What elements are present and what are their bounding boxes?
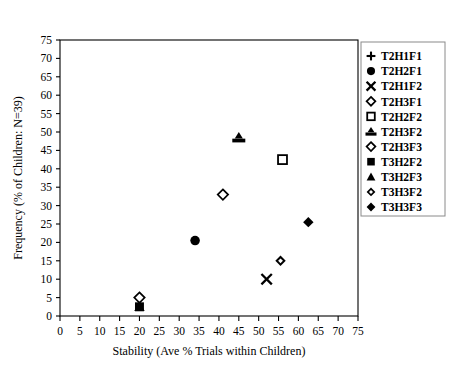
y-tick-label: 75: [41, 34, 53, 46]
legend-item-label: T3H3F3: [381, 201, 422, 213]
y-tick-label: 15: [41, 255, 53, 267]
legend-item: T2H2F2: [367, 111, 422, 123]
scatter-chart: 051015202530354045505560657075 051015202…: [0, 0, 449, 384]
y-tick-label: 70: [41, 52, 53, 64]
legend-item-label: T3H2F2: [381, 156, 422, 168]
x-tick-label: 50: [253, 325, 265, 337]
marker-filled-diamond-T3H3F3: [303, 217, 313, 227]
marker-triangle-bar-T2H3F2: [232, 132, 245, 142]
legend-item-label: T2H3F2: [381, 126, 422, 138]
x-tick-label: 70: [332, 325, 344, 337]
y-tick-label: 5: [46, 292, 52, 304]
marker-filled-circle-T2H2F1: [190, 236, 200, 246]
y-tick-label: 40: [41, 163, 53, 175]
plot-frame: [60, 40, 358, 316]
marker-open-square-legend: [367, 113, 375, 121]
marker-cross-T2H1F2: [261, 274, 271, 284]
y-tick-label: 30: [41, 200, 53, 212]
y-tick-label: 65: [41, 71, 53, 83]
x-axis-title: Stability (Ave % Trials within Children): [113, 344, 306, 358]
marker-open-diamond-T2H3F3: [134, 292, 144, 302]
marker-filled-square-legend: [367, 158, 375, 166]
y-tick-label: 25: [41, 218, 53, 230]
x-tick-label: 20: [134, 325, 146, 337]
x-tick-label: 5: [77, 325, 83, 337]
y-axis-tick-labels: 051015202530354045505560657075: [41, 34, 53, 322]
x-tick-label: 30: [173, 325, 185, 337]
legend-item-label: T2H3F3: [381, 141, 422, 153]
marker-open-square-T2H2F2: [278, 155, 287, 164]
y-axis-title: Frequency (% of Children: N=39): [11, 96, 25, 259]
x-tick-label: 40: [213, 325, 225, 337]
legend-item-label: T2H3F1: [381, 96, 422, 108]
x-tick-label: 55: [273, 325, 285, 337]
legend-item-label: T2H1F1: [381, 50, 422, 62]
y-tick-label: 60: [41, 89, 53, 101]
legend-item-label: T3H3F2: [381, 186, 422, 198]
x-axis-ticks: [60, 316, 358, 321]
y-tick-label: 55: [41, 108, 53, 120]
marker-filled-circle-legend: [367, 67, 375, 75]
data-point-layer: [134, 132, 313, 311]
x-axis-tick-labels: 051015202530354045505560657075: [57, 325, 364, 337]
x-tick-label: 25: [154, 325, 166, 337]
legend-item-label: T2H2F2: [381, 111, 422, 123]
x-tick-label: 65: [313, 325, 325, 337]
legend-item-label: T2H2F1: [381, 65, 422, 77]
x-tick-label: 0: [57, 325, 63, 337]
y-tick-label: 20: [41, 236, 53, 248]
legend-item-label: T3H2F3: [381, 171, 422, 183]
x-tick-label: 10: [94, 325, 106, 337]
x-tick-label: 45: [233, 325, 245, 337]
x-tick-label: 15: [114, 325, 126, 337]
legend-item-label: T2H1F2: [381, 80, 422, 92]
y-tick-label: 50: [41, 126, 53, 138]
y-axis-ticks: [56, 40, 60, 316]
marker-diamond-in-diamond-T3H3F2: [275, 256, 285, 266]
x-tick-label: 60: [293, 325, 305, 337]
y-tick-label: 0: [46, 310, 52, 322]
y-tick-label: 45: [41, 144, 53, 156]
chart-canvas: 051015202530354045505560657075 051015202…: [0, 0, 449, 384]
x-tick-label: 35: [193, 325, 205, 337]
y-tick-label: 35: [41, 181, 53, 193]
marker-open-diamond-T2H3F1: [218, 189, 228, 199]
x-tick-label: 75: [352, 325, 364, 337]
y-tick-label: 10: [41, 273, 53, 285]
